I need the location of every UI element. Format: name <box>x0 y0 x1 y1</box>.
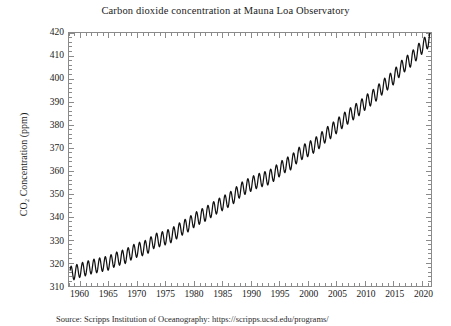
y-tick-label: 340 <box>34 212 64 222</box>
co2-data-line <box>70 33 430 280</box>
y-tick-label: 350 <box>34 189 64 199</box>
y-axis-title: CO₂ Concentration (ppm) <box>18 95 29 235</box>
y-axis-tick-labels: 310320330340350360370380390400410420 <box>30 0 64 326</box>
x-tick-label: 2020 <box>403 289 443 299</box>
axis-major-ticks <box>69 33 431 286</box>
y-tick-label: 400 <box>34 73 64 83</box>
plot-area <box>68 32 432 287</box>
y-tick-label: 410 <box>34 50 64 60</box>
y-tick-label: 420 <box>34 27 64 37</box>
y-tick-label: 320 <box>34 259 64 269</box>
y-tick-label: 360 <box>34 166 64 176</box>
plot-svg <box>69 33 431 286</box>
axis-minor-ticks <box>69 33 431 286</box>
chart-page: Carbon dioxide concentration at Mauna Lo… <box>0 0 451 326</box>
source-caption: Source: Scripps Institution of Oceanogra… <box>56 314 446 324</box>
y-tick-label: 380 <box>34 120 64 130</box>
y-tick-label: 370 <box>34 143 64 153</box>
y-tick-label: 390 <box>34 97 64 107</box>
y-tick-label: 330 <box>34 236 64 246</box>
page-title: Carbon dioxide concentration at Mauna Lo… <box>0 5 451 16</box>
